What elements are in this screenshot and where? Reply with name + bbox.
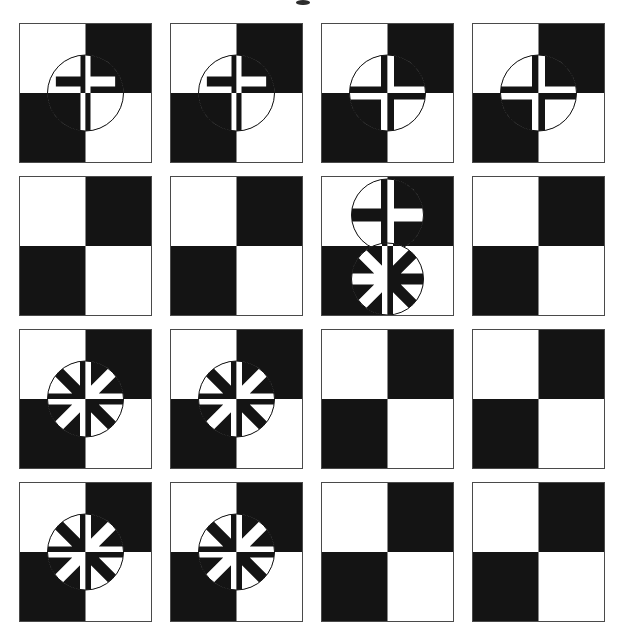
checker-tile: [472, 329, 605, 469]
cell-r1c2: [170, 23, 303, 163]
cell-r3c2: [170, 329, 303, 469]
cell-r4c1-graphic: [19, 482, 152, 622]
cell-r2c2-graphic: [170, 176, 303, 316]
checker-tile: [472, 176, 605, 316]
checkerboard-grid: [19, 23, 605, 623]
cell-r1c2-graphic: [170, 23, 303, 163]
cell-r1c3: [321, 23, 454, 163]
cell-r2c1: [19, 176, 152, 316]
cell-r3c3: [321, 329, 454, 469]
cell-r2c3-graphic: [321, 176, 454, 316]
cell-r1c1: [19, 23, 152, 163]
checker-tile: [321, 329, 454, 469]
cell-r1c4: [472, 23, 605, 163]
cell-r4c4: [472, 482, 605, 622]
cell-r3c2-graphic: [170, 329, 303, 469]
cell-r2c2: [170, 176, 303, 316]
cell-r2c1-graphic: [19, 176, 152, 316]
checker-tile: [19, 176, 152, 316]
page-edge-mark: [296, 0, 310, 5]
checker-tile: [472, 482, 605, 622]
cell-r1c3-graphic: [321, 23, 454, 163]
cell-r4c4-graphic: [472, 482, 605, 622]
checker-tile: [170, 176, 303, 316]
cell-r4c1: [19, 482, 152, 622]
cell-r2c4: [472, 176, 605, 316]
cell-r4c3: [321, 482, 454, 622]
cell-r3c4-graphic: [472, 329, 605, 469]
cell-r4c3-graphic: [321, 482, 454, 622]
checker-tile: [321, 482, 454, 622]
cell-r2c3: [321, 176, 454, 316]
cell-r4c2: [170, 482, 303, 622]
cell-r1c1-graphic: [19, 23, 152, 163]
cell-r4c2-graphic: [170, 482, 303, 622]
cell-r1c4-graphic: [472, 23, 605, 163]
cell-r2c4-graphic: [472, 176, 605, 316]
cell-r3c1-graphic: [19, 329, 152, 469]
cell-r3c3-graphic: [321, 329, 454, 469]
figure-canvas: [0, 0, 621, 642]
cell-r3c1: [19, 329, 152, 469]
cell-r3c4: [472, 329, 605, 469]
